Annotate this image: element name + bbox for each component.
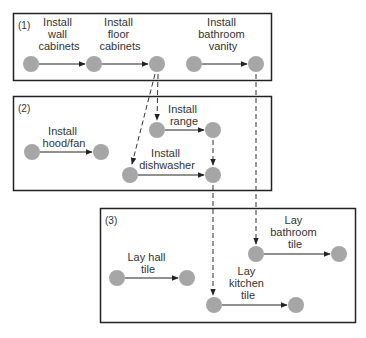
task-arrows (39, 64, 330, 305)
node (248, 246, 264, 262)
node (24, 144, 40, 160)
node (109, 270, 125, 286)
task-label-floor-cabinets: Install floor cabinets (100, 16, 141, 52)
node (186, 56, 202, 72)
node (288, 297, 304, 313)
task-label-hood-fan: Install hood/fan (43, 125, 86, 149)
node (23, 56, 39, 72)
event-nodes (23, 56, 347, 313)
node (331, 246, 347, 262)
node (179, 270, 195, 286)
node (248, 56, 264, 72)
node (149, 122, 165, 138)
node (93, 144, 109, 160)
group-3-label: (3) (105, 215, 117, 226)
group-1-label: (1) (18, 20, 30, 31)
task-label-kitchen-tile: Lay kitchen tile (229, 265, 267, 301)
node (206, 297, 222, 313)
task-label-hall-tile: Lay hall tile (128, 251, 169, 275)
group-2-label: (2) (18, 103, 30, 114)
task-label-bathroom-tile: Lay bathroom tile (270, 214, 320, 250)
node (86, 56, 102, 72)
node (205, 122, 221, 138)
node (122, 167, 138, 183)
task-label-bathroom-vanity: Install bathroom vanity (198, 16, 248, 52)
task-label-wall-cabinets: Install wall cabinets (39, 16, 80, 52)
node (149, 56, 165, 72)
task-label-dishwasher: Install dishwasher (139, 147, 195, 171)
precedence-diagram: (1) (2) (3) (0, 0, 366, 338)
node (205, 167, 221, 183)
task-label-range: Install range (168, 103, 200, 127)
